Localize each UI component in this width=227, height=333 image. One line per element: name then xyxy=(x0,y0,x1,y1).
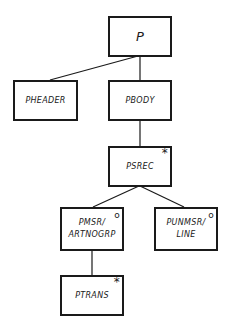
iteration-marker-icon: * xyxy=(114,276,120,288)
node-label: PSREC xyxy=(126,161,154,173)
edge-p-pheader xyxy=(50,56,138,80)
selection-marker-icon: o xyxy=(114,209,120,221)
node-label-line-1: PUNMSR/ xyxy=(167,217,206,229)
node-pbody: PBODY xyxy=(108,80,172,121)
node-p: P xyxy=(108,16,172,57)
node-label-line-2: LINE xyxy=(176,229,195,241)
edge-psrec-pmsr xyxy=(93,186,139,207)
node-ptrans: * PTRANS xyxy=(60,275,124,316)
node-label: PHEADER xyxy=(25,95,65,107)
node-label: PBODY xyxy=(125,95,154,107)
selection-marker-icon: o xyxy=(208,209,214,221)
node-label-line-2: ARTNOGRP xyxy=(68,229,115,241)
iteration-marker-icon: * xyxy=(162,147,168,159)
node-label: PTRANS xyxy=(75,290,109,302)
edge-psrec-punmsr xyxy=(140,186,184,207)
node-label: P xyxy=(136,31,144,43)
node-pmsr-artnogrp: o PMSR/ ARTNOGRP xyxy=(60,207,124,251)
node-label-line-1: PMSR/ xyxy=(79,217,106,229)
node-punmsr-line: o PUNMSR/ LINE xyxy=(154,207,218,251)
structure-diagram: P PHEADER PBODY * PSREC o PMSR/ ARTNOGRP… xyxy=(0,0,227,333)
node-pheader: PHEADER xyxy=(13,80,78,121)
node-psrec: * PSREC xyxy=(108,146,172,187)
